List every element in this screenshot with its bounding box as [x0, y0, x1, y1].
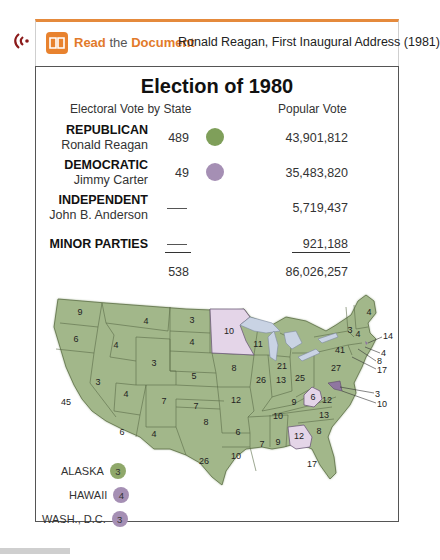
svg-text:7: 7 [259, 439, 264, 449]
svg-text:13: 13 [276, 375, 286, 385]
svg-text:14: 14 [383, 331, 393, 341]
popular-votes: 921,188 [303, 237, 348, 251]
read-the-document-label[interactable]: Read the Document [74, 35, 195, 50]
svg-text:9: 9 [275, 437, 280, 447]
svg-text:10: 10 [231, 451, 241, 461]
svg-text:4: 4 [123, 389, 128, 399]
svg-text:3: 3 [189, 315, 194, 325]
svg-text:8: 8 [231, 363, 236, 373]
inset-label: WASH., D.C. [42, 513, 106, 525]
svg-text:4: 4 [355, 329, 360, 339]
svg-text:11: 11 [253, 339, 262, 349]
svg-text:41: 41 [335, 345, 345, 355]
results-row-republican: REPUBLICAN Ronald Reagan 489 43,901,812 [36, 123, 398, 155]
svg-text:9: 9 [291, 397, 296, 407]
svg-text:7: 7 [193, 401, 198, 411]
party-name: MINOR PARTIES [50, 237, 148, 252]
svg-text:10: 10 [273, 411, 283, 421]
svg-text:12: 12 [231, 395, 241, 405]
inset-label: ALASKA [61, 465, 104, 477]
party-name: REPUBLICAN [61, 123, 148, 138]
svg-text:8: 8 [203, 417, 208, 427]
election-figure: Election of 1980 Electoral Vote by State… [35, 66, 399, 522]
republican-color-swatch [206, 128, 224, 146]
popular-vote-header: Popular Vote [278, 102, 347, 116]
total-divider [292, 252, 350, 253]
inset-hawaii: HAWAII 4 [69, 487, 129, 503]
svg-text:8: 8 [316, 426, 321, 436]
svg-text:4: 4 [366, 307, 371, 317]
audio-speaker-icon[interactable] [10, 31, 30, 51]
svg-text:12: 12 [294, 431, 304, 441]
party-name: DEMOCRATIC [64, 158, 148, 173]
results-row-total: 538 86,026,257 [36, 257, 398, 289]
figure-title: Election of 1980 [36, 75, 398, 98]
popular-votes: 35,483,820 [285, 166, 348, 180]
democratic-color-swatch [206, 163, 224, 181]
read-the-document-bar[interactable]: Read the Document Ronald Reagan, First I… [35, 19, 399, 66]
svg-text:21: 21 [277, 361, 287, 371]
svg-text:3: 3 [151, 358, 156, 368]
svg-text:5: 5 [191, 371, 196, 381]
svg-text:4: 4 [189, 337, 194, 347]
svg-text:17: 17 [377, 365, 387, 375]
electoral-votes: 489 [161, 131, 189, 145]
candidate-name: John B. Anderson [49, 208, 148, 223]
svg-text:6: 6 [235, 427, 240, 437]
popular-votes: 5,719,437 [292, 201, 348, 215]
svg-text:9: 9 [77, 307, 82, 317]
inset-alaska: ALASKA 3 [61, 463, 126, 479]
svg-text:10: 10 [377, 399, 387, 409]
inset-ev-badge: 4 [113, 487, 129, 503]
svg-text:17: 17 [307, 459, 317, 469]
svg-text:4: 4 [151, 429, 156, 439]
inset-ev-badge: 3 [112, 511, 128, 527]
callout-labels: 14 4 8 17 3 10 [375, 331, 393, 409]
candidate-name: Jimmy Carter [64, 173, 148, 188]
svg-text:3: 3 [95, 377, 100, 387]
svg-text:13: 13 [319, 410, 329, 420]
party-name: INDEPENDENT [49, 193, 148, 208]
svg-text:26: 26 [199, 456, 209, 466]
svg-text:3: 3 [347, 325, 352, 335]
svg-text:10: 10 [224, 326, 234, 336]
electoral-vote-header: Electoral Vote by State [70, 102, 191, 116]
svg-text:25: 25 [295, 373, 305, 383]
svg-text:12: 12 [322, 395, 332, 405]
svg-text:3: 3 [375, 389, 380, 399]
svg-text:6: 6 [119, 427, 124, 437]
document-title-link[interactable]: Ronald Reagan, First Inaugural Address (… [178, 35, 440, 49]
svg-text:6: 6 [73, 334, 78, 344]
inset-label: HAWAII [69, 489, 107, 501]
popular-votes: 43,901,812 [285, 131, 348, 145]
svg-text:4: 4 [143, 316, 148, 326]
electoral-votes: 49 [161, 166, 189, 180]
inset-ev-badge: 3 [110, 463, 126, 479]
candidate-name: Ronald Reagan [61, 138, 148, 153]
svg-text:7: 7 [161, 396, 166, 406]
no-electoral-votes-dash [167, 244, 187, 245]
no-electoral-votes-dash [167, 208, 187, 209]
svg-text:27: 27 [331, 363, 341, 373]
total-popular-votes: 86,026,257 [285, 265, 348, 279]
results-row-independent: INDEPENDENT John B. Anderson 5,719,437 [36, 193, 398, 225]
results-row-democratic: DEMOCRATIC Jimmy Carter 49 35,483,820 [36, 158, 398, 190]
page-progress-strip [0, 548, 70, 554]
inset-washington-dc: WASH., D.C. 3 [42, 511, 128, 527]
open-book-icon [46, 32, 68, 54]
total-divider [165, 252, 191, 253]
total-electoral-votes: 538 [161, 265, 189, 279]
svg-text:45: 45 [61, 397, 71, 407]
svg-text:4: 4 [113, 340, 118, 350]
svg-text:6: 6 [310, 392, 315, 402]
svg-text:26: 26 [256, 375, 266, 385]
